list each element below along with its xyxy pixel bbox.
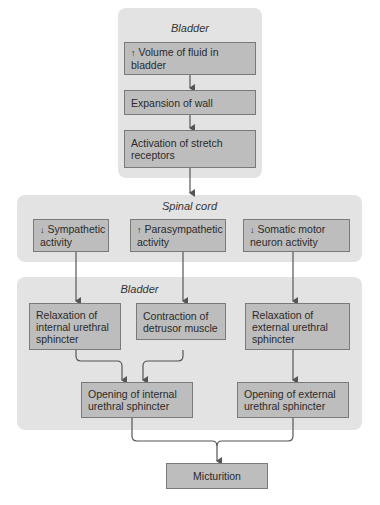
node-expansion: Expansion of wall: [124, 90, 256, 115]
node-activation: Activation of stretch receptors: [124, 130, 256, 168]
node-activation-label: Activation of stretch receptors: [131, 137, 249, 161]
node-volume: ↑Volume of fluid in bladder: [124, 42, 256, 75]
increase-arrow-icon: ↑: [137, 225, 142, 235]
node-parasympathetic-label: Parasympathetic activity: [137, 223, 223, 248]
node-contract-detrusor-label: Contraction of detrusor muscle: [143, 310, 219, 334]
node-sympathetic-label: Sympathetic activity: [40, 223, 105, 248]
node-somatic: ↓Somatic motor neuron activity: [243, 219, 350, 252]
node-sympathetic: ↓Sympathetic activity: [33, 219, 109, 252]
node-open-internal: Opening of internal urethral sphincter: [81, 382, 193, 418]
edge-open-internal-micturition: [132, 418, 217, 461]
node-relax-external-label: Relaxation of external urethral sphincte…: [252, 309, 343, 345]
decrease-arrow-icon: ↓: [250, 225, 255, 235]
node-open-internal-label: Opening of internal urethral sphincter: [88, 388, 186, 412]
node-contract-detrusor: Contraction of detrusor muscle: [136, 303, 226, 340]
node-somatic-label: Somatic motor neuron activity: [250, 223, 325, 248]
node-relax-internal: Relaxation of internal urethral sphincte…: [29, 303, 121, 350]
node-micturition: Micturition: [166, 463, 268, 489]
node-relax-external: Relaxation of external urethral sphincte…: [245, 303, 350, 350]
node-open-external: Opening of external urethral sphincter: [237, 382, 349, 418]
node-micturition-label: Micturition: [193, 470, 241, 482]
edge-open-external-micturition: [217, 418, 293, 446]
connector-layer: [0, 0, 380, 505]
increase-arrow-icon: ↑: [131, 48, 136, 58]
node-parasympathetic: ↑Parasympathetic activity: [130, 219, 226, 252]
node-relax-internal-label: Relaxation of internal urethral sphincte…: [36, 309, 114, 345]
node-expansion-label: Expansion of wall: [131, 97, 213, 109]
edge-detrusor-open-internal: [143, 350, 183, 380]
node-open-external-label: Opening of external urethral sphincter: [244, 388, 342, 412]
edge-relax-internal-open-internal: [76, 350, 122, 380]
decrease-arrow-icon: ↓: [40, 225, 45, 235]
node-volume-label: Volume of fluid in bladder: [131, 46, 218, 71]
